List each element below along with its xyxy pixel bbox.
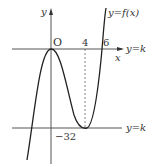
curve-label: y=f(x) bbox=[107, 7, 139, 18]
y-axis-label: y bbox=[40, 6, 47, 17]
line-label-upper: y=k bbox=[125, 43, 146, 54]
y-tick-minus32: −32 bbox=[55, 131, 76, 142]
x-axis-label: x bbox=[115, 52, 121, 63]
line-label-lower: y=k bbox=[125, 122, 146, 133]
x-tick-6: 6 bbox=[103, 37, 109, 48]
origin-label: O bbox=[53, 36, 62, 49]
function-graph: y x O 4 6 −32 y=f(x) y=k y=k bbox=[0, 0, 161, 167]
y-axis-arrow-icon bbox=[49, 8, 53, 15]
x-tick-4: 4 bbox=[82, 37, 88, 48]
x-axis-arrow-icon bbox=[117, 47, 124, 51]
